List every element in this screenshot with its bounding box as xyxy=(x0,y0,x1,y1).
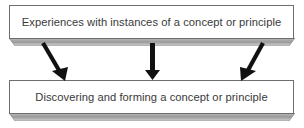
right-arrow-icon xyxy=(240,43,263,81)
bottom-box-label: Discovering and forming a concept or pri… xyxy=(35,91,267,103)
top-box-bevel xyxy=(9,38,295,46)
center-arrow-icon xyxy=(145,43,160,80)
top-box-label: Experiences with instances of a concept … xyxy=(22,16,281,28)
bottom-box-bevel xyxy=(9,113,295,121)
top-box: Experiences with instances of a concept … xyxy=(9,5,294,39)
left-arrow-icon xyxy=(43,43,68,81)
bottom-box: Discovering and forming a concept or pri… xyxy=(9,80,294,114)
